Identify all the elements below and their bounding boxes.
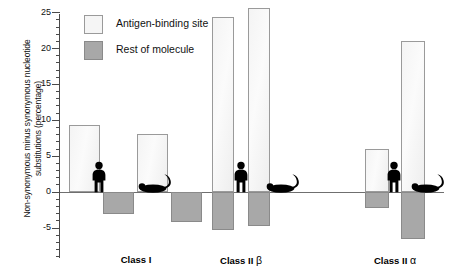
y-minor-tick [56, 27, 61, 28]
y-minor-tick [56, 206, 61, 207]
y-minor-tick [56, 41, 61, 42]
bar-class2beta-mouse-rest-of-molecule [248, 192, 270, 227]
y-tick-5 [52, 156, 60, 157]
y-minor-tick [56, 184, 61, 185]
y-minor-tick [56, 127, 61, 128]
y-tick-15 [52, 84, 60, 85]
y-minor-tick [56, 91, 61, 92]
y-minor-tick [56, 70, 61, 71]
group-label-class2alpha-prefix: Class II [374, 255, 410, 266]
chart-figure: Non-synonymous minus synonymous nucleoti… [0, 0, 452, 275]
y-minor-tick [56, 177, 61, 178]
bar-class2alpha-human-rest-of-molecule [365, 192, 389, 209]
y-minor-tick [56, 19, 61, 20]
y-tick-10 [52, 120, 60, 121]
y-minor-tick [56, 105, 61, 106]
bar-class1-mouse-rest-of-molecule [171, 192, 202, 223]
bar-class2alpha-mouse-rest-of-molecule [401, 192, 425, 239]
y-minor-tick [56, 220, 61, 221]
y-minor-tick [56, 113, 61, 114]
mouse-icon [266, 172, 304, 193]
group-label-class2beta-prefix: Class II [220, 255, 256, 266]
mouse-icon [411, 172, 449, 193]
legend-label-rest-of-molecule: Rest of molecule [116, 43, 194, 56]
y-minor-tick [56, 235, 61, 236]
y-minor-tick [56, 249, 61, 250]
y-minor-tick [56, 242, 61, 243]
y-tick-25 [52, 12, 60, 13]
y-tick-20 [52, 48, 60, 49]
group-label-class2alpha-greek: α [410, 254, 416, 266]
y-tick-label-15: 15 [11, 79, 51, 88]
y-tick-label-5: 5 [11, 151, 51, 160]
y-minor-tick [56, 170, 61, 171]
y-tick-0 [52, 192, 60, 193]
y-minor-tick [56, 62, 61, 63]
y-minor-tick [56, 256, 61, 257]
human-icon [230, 161, 252, 193]
y-minor-tick [56, 199, 61, 200]
mouse-icon [138, 172, 176, 193]
bar-class2beta-human-rest-of-molecule [212, 192, 234, 231]
group-label-class2alpha: Class II α [350, 254, 440, 266]
y-tick-minus5 [52, 228, 60, 229]
y-minor-tick [56, 34, 61, 35]
group-label-class2beta-greek: β [256, 254, 262, 266]
y-tick-label-minus5: -5 [11, 223, 51, 232]
y-minor-tick [56, 98, 61, 99]
group-label-class2beta: Class II β [196, 254, 286, 266]
y-minor-tick [56, 134, 61, 135]
y-minor-tick [56, 55, 61, 56]
y-axis-line [59, 14, 60, 258]
y-minor-tick [56, 141, 61, 142]
y-tick-label-25: 25 [11, 8, 51, 17]
y-minor-tick [56, 213, 61, 214]
bar-class1-human-rest-of-molecule [103, 192, 134, 214]
y-tick-label-0: 0 [11, 187, 51, 196]
legend-label-antigen-binding-site: Antigen-binding site [116, 17, 208, 30]
human-icon [383, 161, 405, 193]
human-icon [88, 161, 110, 193]
y-tick-label-10: 10 [11, 115, 51, 124]
group-label-class1-text: Class I [121, 254, 152, 265]
legend-swatch-antigen-binding-site [84, 15, 103, 34]
y-minor-tick [56, 149, 61, 150]
y-minor-tick [56, 163, 61, 164]
legend-swatch-rest-of-molecule [84, 41, 103, 60]
y-tick-label-20: 20 [11, 44, 51, 53]
y-minor-tick [56, 77, 61, 78]
group-label-class1: Class I [91, 254, 181, 265]
